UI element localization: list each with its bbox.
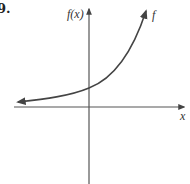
graph: f(x) f x — [0, 0, 190, 184]
curve-label: f — [152, 8, 157, 22]
y-axis-label: f(x) — [67, 7, 84, 21]
curve-f — [18, 11, 146, 102]
x-axis-label: x — [179, 109, 186, 123]
